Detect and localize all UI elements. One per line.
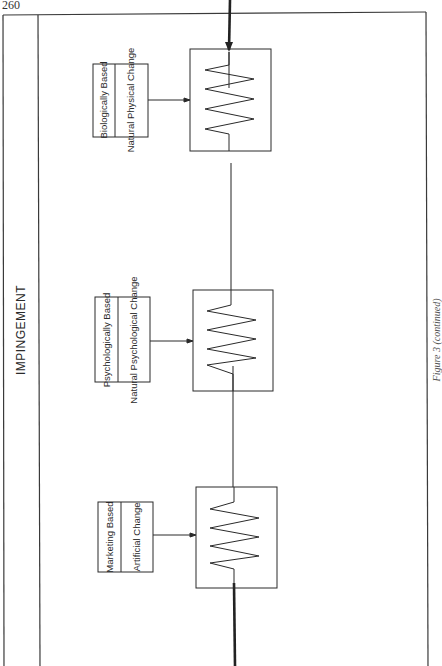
- source-change-label: Natural Psychological Change: [128, 276, 139, 403]
- source-based-label: Marketing Based: [104, 501, 115, 572]
- figure-caption: Figure 3 (continued): [431, 298, 442, 383]
- source-change-label: Artificial Change: [131, 502, 142, 571]
- arrow-down-icon: [225, 42, 233, 52]
- connectors: [148, 98, 196, 537]
- arrow-right-icon: [187, 339, 193, 343]
- impingement-diagram: IMPINGEMENT Biologically Based Natu: [0, 0, 442, 666]
- resistor-psychological: [193, 290, 273, 391]
- arrow-right-icon: [190, 533, 196, 537]
- source-based-label: Biologically Based: [98, 61, 109, 138]
- source-change-label: Natural Physical Change: [125, 48, 136, 153]
- source-based-label: Psychologically Based: [101, 293, 112, 388]
- outer-frame: [3, 12, 428, 666]
- flow-line: [225, 0, 235, 666]
- source-box-marketing: Marketing Based Artificial Change: [98, 501, 153, 572]
- resistor-biological: [190, 49, 271, 151]
- source-box-biological: Biologically Based Natural Physical Chan…: [93, 48, 148, 153]
- arrow-right-icon: [184, 98, 190, 102]
- resistor-marketing: [196, 487, 277, 588]
- source-box-psychological: Psychologically Based Natural Psychologi…: [95, 276, 150, 403]
- frame-title: IMPINGEMENT: [14, 285, 28, 375]
